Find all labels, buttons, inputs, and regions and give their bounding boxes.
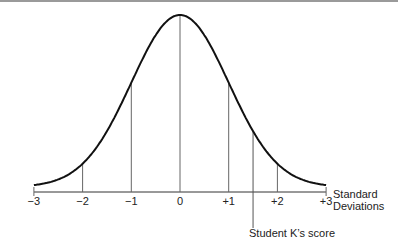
tick-label: +2 (271, 195, 284, 207)
tick-label: +1 (222, 195, 235, 207)
tick-label: −3 (28, 195, 41, 207)
tick-label: 0 (177, 195, 183, 207)
axis-label-line2: Deviations (333, 200, 384, 212)
tick-label: −2 (76, 195, 89, 207)
axis-label-line1: Standard (333, 188, 378, 200)
tick-label: −1 (125, 195, 138, 207)
tick-label: +3 (320, 195, 333, 207)
student-score-label: Student K’s score (249, 227, 335, 239)
